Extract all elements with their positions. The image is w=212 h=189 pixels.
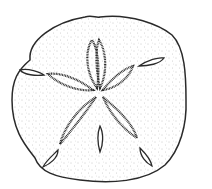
sand-dollar-illustration bbox=[0, 0, 212, 189]
test-outline bbox=[12, 16, 186, 182]
lunule-bottom bbox=[98, 126, 103, 152]
